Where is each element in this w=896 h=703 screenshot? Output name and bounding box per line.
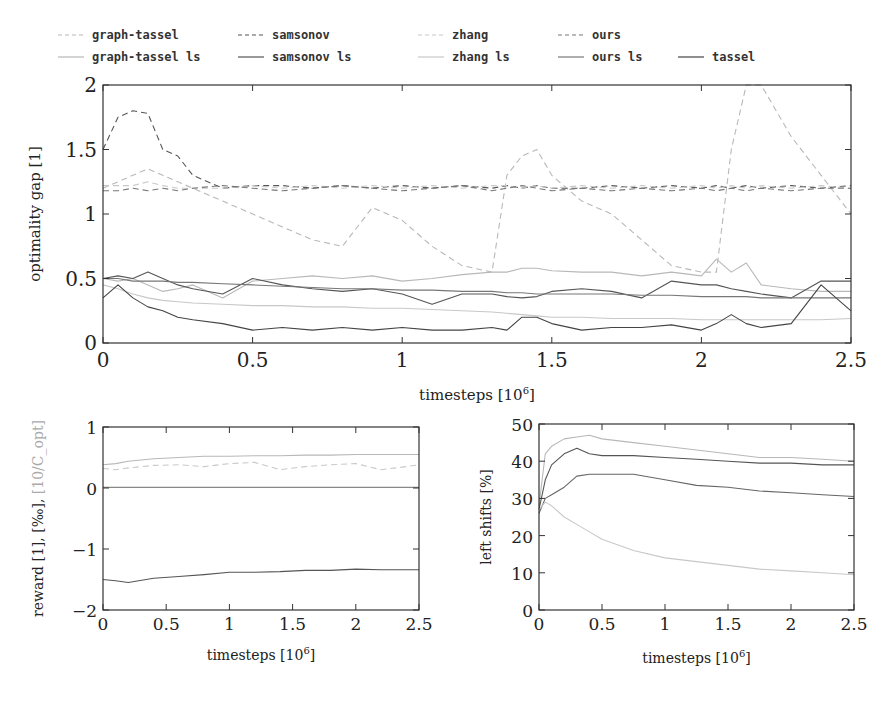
y-axis-label: left shifts [%] bbox=[478, 469, 494, 564]
x-tick-label: 1.5 bbox=[536, 348, 568, 372]
x-tick-label: 2.5 bbox=[835, 348, 867, 372]
y-tick-label: 0 bbox=[84, 331, 97, 355]
x-tick-label: 0 bbox=[534, 614, 545, 634]
x-tick-label: 1.5 bbox=[279, 614, 306, 634]
x-tick-label: 1 bbox=[660, 614, 671, 634]
series-graph-tassel-ls bbox=[103, 259, 851, 298]
series-samsonov bbox=[103, 111, 851, 188]
x-tick-label: 2 bbox=[786, 614, 797, 634]
y-tick-label: 50 bbox=[511, 415, 533, 435]
x-tick-label: 0 bbox=[98, 614, 109, 634]
reward-plot: 00.511.522.5−2−101timesteps [106]reward … bbox=[30, 418, 433, 663]
x-tick-label: 0.5 bbox=[588, 614, 615, 634]
y-tick-label: 0 bbox=[86, 479, 97, 499]
y-tick-label: 0 bbox=[522, 601, 533, 621]
y-axis-label: reward [1], [‰], [10/C_opt] bbox=[30, 420, 47, 617]
series-light-solid-bottom bbox=[539, 502, 854, 575]
y-tick-label: 1 bbox=[84, 202, 97, 226]
x-tick-label: 0.5 bbox=[237, 348, 269, 372]
x-tick-label: 1.5 bbox=[714, 614, 741, 634]
y-tick-label: 2 bbox=[84, 73, 97, 97]
y-tick-label: −1 bbox=[72, 540, 97, 560]
x-tick-label: 1 bbox=[224, 614, 235, 634]
y-tick-label: −2 bbox=[72, 601, 97, 621]
y-tick-label: 1.5 bbox=[65, 138, 97, 162]
series-dark-solid-upper bbox=[539, 448, 854, 509]
x-tick-label: 2 bbox=[695, 348, 708, 372]
y-tick-label: 10 bbox=[511, 564, 533, 584]
x-axis-label: timesteps [106] bbox=[642, 648, 750, 666]
y-tick-label: 30 bbox=[511, 489, 533, 509]
series-graph-tassel bbox=[103, 85, 851, 272]
y-axis-label: optimality gap [1] bbox=[26, 146, 44, 282]
y-tick-label: 40 bbox=[511, 452, 533, 472]
y-tick-label: 0.5 bbox=[65, 267, 97, 291]
x-tick-label: 1 bbox=[396, 348, 409, 372]
series-light-solid-top bbox=[539, 435, 854, 506]
series-dark-solid-middle bbox=[539, 474, 854, 513]
x-tick-label: 2.5 bbox=[840, 614, 867, 634]
left-shifts-plot: 00.511.522.501020304050timesteps [106]le… bbox=[478, 415, 868, 666]
series-samsonov-ls bbox=[103, 272, 851, 304]
series-light-solid bbox=[103, 455, 419, 465]
x-tick-label: 2 bbox=[350, 614, 361, 634]
x-tick-label: 0.5 bbox=[153, 614, 180, 634]
series-light-dashed bbox=[103, 462, 419, 469]
x-axis-label: timesteps [106] bbox=[419, 385, 535, 404]
y-tick-label: 1 bbox=[86, 418, 97, 438]
series-dark-solid bbox=[103, 569, 419, 582]
x-tick-label: 0 bbox=[97, 348, 110, 372]
x-tick-label: 2.5 bbox=[405, 614, 432, 634]
y-tick-label: 20 bbox=[511, 527, 533, 547]
optimality-gap-plot: 00.511.522.500.511.52timesteps [106]opti… bbox=[26, 73, 867, 404]
x-axis-label: timesteps [106] bbox=[207, 645, 315, 663]
optimality-gap-chart: 00.511.522.500.511.52timesteps [106]opti… bbox=[0, 0, 896, 703]
